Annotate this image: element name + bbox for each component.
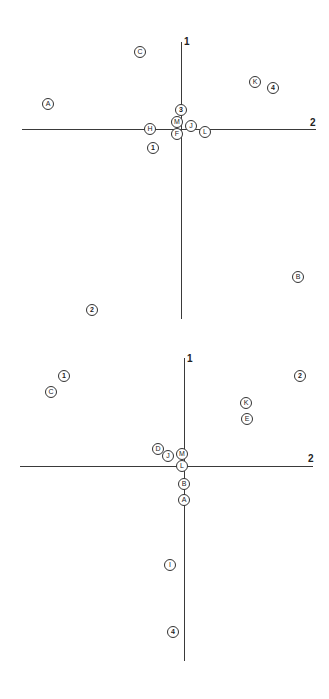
axis-label-2: 2 (308, 454, 314, 464)
circled-marker-2: 2 (294, 370, 306, 382)
circled-marker-j: J (162, 450, 174, 462)
circled-marker-i: I (164, 559, 176, 571)
circled-marker-e: E (241, 413, 253, 425)
circled-marker-4: 4 (167, 626, 179, 638)
circled-marker-b: B (178, 478, 190, 490)
circled-marker-c: C (45, 386, 57, 398)
bottom-scatter-plot: 1 2 1C2KEDJMLBAI4 (0, 0, 329, 699)
circled-marker-m: M (176, 448, 188, 460)
axis-label-1: 1 (187, 354, 193, 364)
circled-marker-k: K (240, 397, 252, 409)
circled-marker-1: 1 (58, 370, 70, 382)
circled-marker-a: A (178, 494, 190, 506)
horizontal-axis-2 (20, 466, 313, 467)
vertical-axis-1 (184, 358, 185, 661)
circled-marker-l: L (176, 460, 188, 472)
